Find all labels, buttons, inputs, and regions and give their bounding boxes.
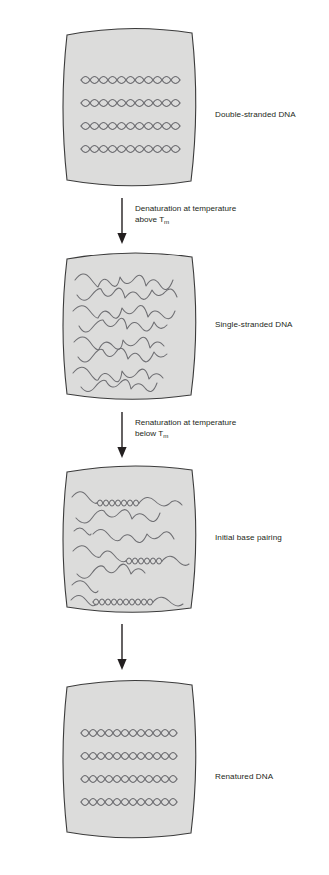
panel-single-stranded-shape [57,246,202,406]
panel-double-stranded [57,21,202,193]
panel-initial-base-pairing [57,459,202,619]
step-renaturation-tm-subscript: m [163,432,168,439]
dna-renaturation-figure: Double-stranded DNA Denaturation at temp… [0,0,329,875]
arrow-down-icon [111,411,133,459]
panel-double-stranded-shape [57,21,202,193]
panel-renatured [57,673,202,845]
step-completion [111,623,133,671]
step-denaturation-line1: Denaturation at temperature [135,203,236,214]
label-initial-base-pairing: Initial base pairing [215,533,282,543]
label-renatured-dna: Renatured DNA [215,772,273,782]
step-denaturation-line2-text: above T [135,215,164,224]
footer-divider [0,871,329,875]
panel-single-stranded [57,246,202,406]
step-renaturation [111,411,133,459]
step-denaturation-label: Denaturation at temperature above Tm [135,203,236,225]
step-denaturation-tm-subscript: m [164,218,169,225]
label-double-stranded-dna: Double-stranded DNA [215,110,296,120]
label-single-stranded-dna: Single-stranded DNA [215,320,293,330]
step-renaturation-line2-text: below T [135,429,163,438]
arrow-down-icon [111,197,133,245]
step-renaturation-label: Renaturation at temperature below Tm [135,417,236,439]
panel-initial-base-pairing-shape [57,459,202,619]
step-renaturation-line1: Renaturation at temperature [135,417,236,428]
step-renaturation-line2: below Tm [135,428,236,439]
step-denaturation [111,197,133,245]
arrow-down-icon [111,623,133,671]
step-denaturation-line2: above Tm [135,214,236,225]
panel-renatured-shape [57,673,202,845]
